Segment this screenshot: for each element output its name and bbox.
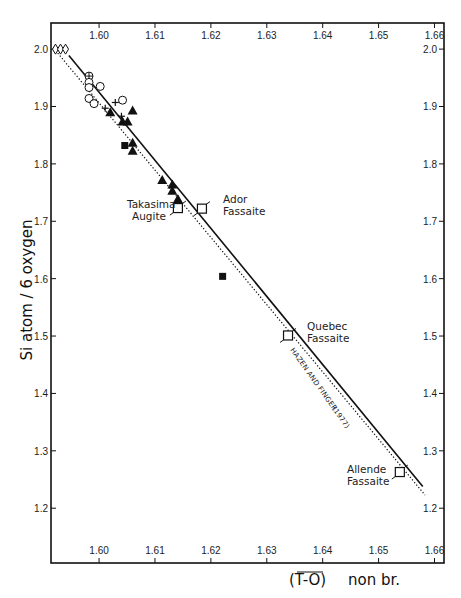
scatter-chart: 1.601.601.611.611.621.621.631.631.641.64…	[0, 0, 461, 598]
y-tick-label-right: 1.4	[423, 388, 437, 399]
x-axis-ticks: 1.601.601.611.611.621.621.631.631.641.64…	[89, 23, 444, 563]
y-tick-label-left: 1.3	[34, 446, 48, 457]
marker-circle-open	[85, 84, 93, 92]
x-axis-title-main: (T-O)	[289, 571, 326, 589]
annotation-takasima-augite: Takasima Augite	[126, 198, 176, 222]
marker-square-open-tailed	[280, 328, 296, 342]
y-tick-label-left: 1.9	[34, 101, 48, 112]
x-tick-label-bottom: 1.66	[425, 545, 445, 556]
marker-plus	[102, 105, 109, 112]
x-axis-title: (T-O) non br.	[289, 571, 400, 589]
x-tick-label-bottom: 1.60	[89, 545, 109, 556]
reference-line-text: HAZEN AND FINGER	[288, 347, 338, 413]
x-tick-label-top: 1.64	[313, 30, 333, 41]
annotation-text: Quebec	[307, 320, 348, 332]
marker-circle-open	[96, 82, 104, 90]
annotation-text: Augite	[132, 210, 166, 222]
y-axis-ticks: 2.02.01.91.91.81.81.71.71.61.61.51.51.41…	[34, 44, 444, 514]
x-tick-label-top: 1.65	[369, 30, 389, 41]
y-tick-label-left: 1.6	[34, 274, 48, 285]
y-tick-label-left: 1.5	[34, 331, 48, 342]
annotation-text: Fassaite	[223, 205, 265, 217]
y-tick-label-left: 1.4	[34, 388, 48, 399]
x-tick-label-bottom: 1.64	[313, 545, 333, 556]
marker-square-open-tailed	[194, 202, 210, 216]
x-tick-label-top: 1.62	[201, 30, 221, 41]
marker-triangle-filled	[157, 175, 167, 184]
y-tick-label-right: 1.7	[423, 216, 437, 227]
marker-triangle-filled	[128, 138, 138, 147]
y-tick-label-right: 1.5	[423, 331, 437, 342]
x-tick-label-top: 1.61	[145, 30, 165, 41]
y-axis-title: Si atom / 6 oxygen	[18, 220, 36, 361]
annotation-allende-fassaite: Allende Fassaite	[347, 463, 389, 487]
x-tick-label-bottom: 1.61	[145, 545, 165, 556]
reference-line-dotted	[58, 53, 425, 495]
marker-diamond-open	[63, 44, 69, 54]
marker-square-filled	[219, 273, 226, 280]
y-tick-label-right: 1.6	[423, 274, 437, 285]
x-axis-title-suffix: non br.	[348, 571, 400, 589]
x-tick-label-bottom: 1.63	[257, 545, 277, 556]
x-tick-label-bottom: 1.65	[369, 545, 389, 556]
y-tick-label-left: 2.0	[34, 44, 48, 55]
annotation-text: Allende	[347, 463, 386, 475]
annotation-text: Ador	[223, 193, 248, 205]
y-tick-label-left: 1.8	[34, 159, 48, 170]
y-tick-label-right: 1.2	[423, 503, 437, 514]
annotation-text: Fassaite	[307, 332, 349, 344]
y-tick-label-right: 2.0	[423, 44, 437, 55]
marker-square-filled	[121, 142, 128, 149]
data-markers	[52, 44, 407, 479]
reference-line-year: (1977)	[330, 405, 351, 430]
marker-square-open-tailed	[392, 465, 408, 479]
fit-lines	[58, 53, 425, 495]
y-tick-label-right: 1.8	[423, 159, 437, 170]
marker-triangle-filled	[128, 106, 138, 115]
x-tick-label-top: 1.66	[425, 30, 445, 41]
annotation-text: Takasima	[126, 198, 176, 210]
marker-circle-open	[90, 100, 98, 108]
y-tick-label-left: 1.7	[34, 216, 48, 227]
annotation-quebec-fassaite: Quebec Fassaite	[307, 320, 349, 344]
y-tick-label-right: 1.9	[423, 101, 437, 112]
annotation-ador-fassaite: Ador Fassaite	[223, 193, 265, 217]
marker-plus	[112, 99, 119, 106]
marker-circle-open	[119, 96, 127, 104]
y-tick-label-left: 1.2	[34, 503, 48, 514]
y-tick-label-right: 1.3	[423, 446, 437, 457]
annotation-text: Fassaite	[347, 475, 389, 487]
x-tick-label-top: 1.63	[257, 30, 277, 41]
x-tick-label-top: 1.60	[89, 30, 109, 41]
x-tick-label-bottom: 1.62	[201, 545, 221, 556]
